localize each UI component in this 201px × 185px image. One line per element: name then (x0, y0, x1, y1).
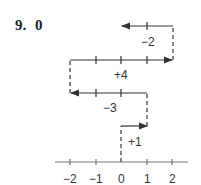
step-label: −3 (103, 101, 117, 115)
tick-label: −1 (89, 172, 103, 185)
step-label: +4 (114, 68, 128, 82)
tick-label: 2 (169, 172, 176, 185)
tick-label: −2 (63, 172, 77, 185)
tick-label: 1 (144, 172, 151, 185)
step-label: −2 (141, 35, 155, 49)
step-label: +1 (128, 135, 142, 149)
number-line-diagram: −2 +4 −3 +1 −2 −1 0 1 2 (0, 0, 201, 185)
tick-label: 0 (118, 172, 125, 185)
